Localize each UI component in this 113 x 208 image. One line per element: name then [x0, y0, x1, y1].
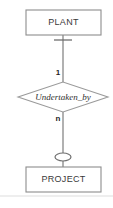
er-diagram-canvas: PLANT Undertaken_by 1 n PROJECT	[0, 0, 113, 208]
entity-label-plant: PLANT	[48, 17, 79, 27]
optional-participation-oval-icon	[55, 153, 71, 161]
entity-label-project: PROJECT	[41, 174, 85, 184]
relationship-label-undertaken-by: Undertaken_by	[35, 92, 90, 102]
cardinality-label-n: n	[56, 114, 61, 123]
cardinality-label-one: 1	[56, 68, 61, 77]
er-diagram-svg: PLANT Undertaken_by 1 n PROJECT	[0, 0, 113, 208]
